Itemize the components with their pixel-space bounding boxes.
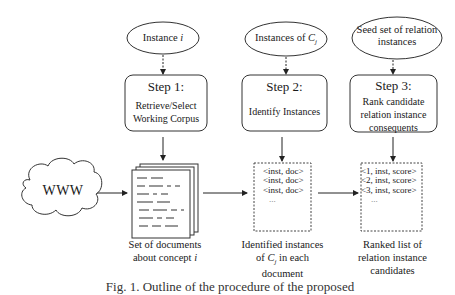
step-1-label: Step 1: Retrieve/Select Working Corpus [125,80,207,125]
ranked-list: <1, inst, score> <2, inst, score> <3, in… [361,167,417,205]
www-label: WWW [30,183,96,199]
step-1-desc-2: Working Corpus [125,112,207,125]
label-line1: Set of documents [115,238,215,251]
list-item: ... [263,195,304,204]
label-var: i [180,32,183,43]
step-1-desc-1: Retrieve/Select [125,99,207,112]
step-2-title: Step 2: [242,80,327,95]
label-line2: of Cj in each [230,251,335,267]
label-line3: candidates [345,264,440,277]
label-line1: Seed set of relation [352,24,442,36]
label-pre: of [256,252,267,263]
output-instances-label: Identified instances of Cj in each docum… [230,238,335,280]
label-var: i [194,252,197,263]
input-instances-cj-label: Instances of Cj [245,32,327,46]
label-sub: j [315,38,317,46]
input-instance-i-label: Instance i [127,32,199,44]
label-line2: relation instance [345,251,440,264]
label-text: about concept [133,252,194,263]
output-ranked-label: Ranked list of relation instance candida… [345,238,440,277]
figure-caption: Fig. 1. Outline of the procedure of the … [60,280,400,295]
label-line1: Ranked list of [345,238,440,251]
label-line1: Identified instances [230,238,335,251]
label-line2: about concept i [115,251,215,264]
document-stack-icon [132,164,198,238]
label-var: C [308,32,315,43]
output-docs-label: Set of documents about concept i [115,238,215,264]
step-2-label: Step 2: Identify Instances [242,80,327,118]
list-item: <3, inst, score> [361,186,417,195]
label-line2: instances [352,36,442,48]
step-3-desc-1: Rank candidate [350,95,437,108]
step-3-label: Step 3: Rank candidate relation instance… [350,79,437,134]
step-3-title: Step 3: [350,79,437,94]
step-2-desc-1: Identify Instances [242,105,327,118]
step-3-desc-2: relation instance [350,108,437,121]
instances-list: <inst, doc> <inst, doc> <inst, doc> ... [263,167,304,205]
label-text: Instances of [255,32,308,43]
label-post: in each [276,252,309,263]
list-item: ... [361,195,417,204]
input-seed-set-label: Seed set of relation instances [352,24,442,48]
step-1-title: Step 1: [125,80,207,95]
step-3-desc-3: consequents [350,121,437,134]
label-text: Instance [143,32,181,43]
